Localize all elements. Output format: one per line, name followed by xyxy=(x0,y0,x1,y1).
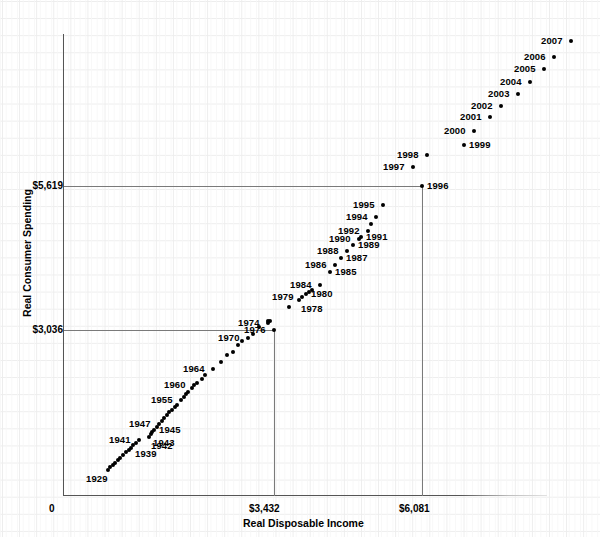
data-point-label: 1995 xyxy=(353,200,375,210)
data-point-label: 2002 xyxy=(471,101,493,111)
data-point xyxy=(200,377,204,381)
data-point xyxy=(339,256,343,260)
data-point-label: 1976 xyxy=(244,325,266,335)
reference-line-horizontal-5619 xyxy=(64,186,422,187)
data-point xyxy=(472,129,476,133)
y-tick-label-5619: $5,619 xyxy=(32,180,63,191)
data-point-label: 2000 xyxy=(444,126,466,136)
data-point xyxy=(516,92,520,96)
data-point xyxy=(137,438,141,442)
data-point xyxy=(488,115,492,119)
data-point-label: 1986 xyxy=(305,260,327,270)
data-point xyxy=(186,390,190,394)
data-point-label: 1929 xyxy=(86,474,108,484)
y-axis-line xyxy=(63,34,64,496)
data-point xyxy=(420,184,424,188)
data-point-label: 1992 xyxy=(338,226,360,236)
data-point xyxy=(381,203,385,207)
x-axis-line xyxy=(63,495,547,496)
data-point-label: 1994 xyxy=(346,212,368,222)
x-axis-title: Real Disposable Income xyxy=(243,517,364,529)
data-point xyxy=(528,80,532,84)
data-point xyxy=(219,360,223,364)
data-point xyxy=(542,67,546,71)
data-point xyxy=(225,353,229,357)
data-point-label: 1996 xyxy=(427,181,449,191)
data-point xyxy=(268,319,272,323)
data-point-label: 2007 xyxy=(541,36,563,46)
data-point-label: 1945 xyxy=(159,425,181,435)
data-point xyxy=(411,165,415,169)
data-point-label: 1999 xyxy=(469,140,491,150)
data-point-label: 1978 xyxy=(301,304,323,314)
data-point xyxy=(287,305,291,309)
data-point-label: 1960 xyxy=(164,380,186,390)
data-point xyxy=(175,403,179,407)
data-point xyxy=(272,328,276,332)
data-point-label: 1997 xyxy=(383,162,405,172)
data-point xyxy=(240,339,244,343)
data-point-label: 2006 xyxy=(524,52,546,62)
data-point xyxy=(231,350,235,354)
reference-line-vertical-6081 xyxy=(422,186,423,496)
data-point xyxy=(369,222,373,226)
x-tick-label-3432: $3,432 xyxy=(249,503,280,514)
data-point xyxy=(499,104,503,108)
data-point xyxy=(300,295,304,299)
x-tick-label-0: 0 xyxy=(49,503,55,514)
y-axis-title: Real Consumer Spending xyxy=(21,163,33,343)
data-point-label: 1955 xyxy=(151,395,173,405)
data-point-label: 2005 xyxy=(514,64,536,74)
data-point-label: 2001 xyxy=(460,112,482,122)
data-point-label: 1985 xyxy=(335,267,357,277)
data-point-label: 1987 xyxy=(346,253,368,263)
data-point-label: 1980 xyxy=(311,289,333,299)
x-tick-label-6081: $6,081 xyxy=(399,503,430,514)
data-point xyxy=(246,336,250,340)
data-point xyxy=(318,283,322,287)
data-point-label: 2003 xyxy=(488,89,510,99)
data-point-label: 1979 xyxy=(272,292,294,302)
data-point xyxy=(462,143,466,147)
data-point-label: 1941 xyxy=(109,435,131,445)
data-point-label: 1998 xyxy=(397,150,419,160)
data-point xyxy=(328,270,332,274)
data-point xyxy=(425,153,429,157)
data-point-label: 1988 xyxy=(317,246,339,256)
data-point-label: 1947 xyxy=(129,419,151,429)
data-point xyxy=(211,367,215,371)
data-point-label: 1970 xyxy=(218,333,240,343)
y-tick-label-3036: $3,036 xyxy=(32,324,63,335)
data-point xyxy=(195,381,199,385)
data-point-label: 1943 xyxy=(153,438,175,448)
reference-line-vertical-3432 xyxy=(274,330,275,496)
data-point-label: 1991 xyxy=(366,232,388,242)
data-point-label: 1984 xyxy=(290,280,312,290)
reference-line-horizontal-3036 xyxy=(64,330,274,331)
data-point-label: 2004 xyxy=(500,77,522,87)
scatter-plot-canvas: $5,619 $3,036 0 $3,432 $6,081 Real Consu… xyxy=(0,0,600,537)
data-point xyxy=(552,55,556,59)
data-point xyxy=(569,39,573,43)
data-point xyxy=(236,343,240,347)
data-point xyxy=(374,215,378,219)
data-point xyxy=(351,243,355,247)
data-point-label: 1964 xyxy=(183,364,205,374)
